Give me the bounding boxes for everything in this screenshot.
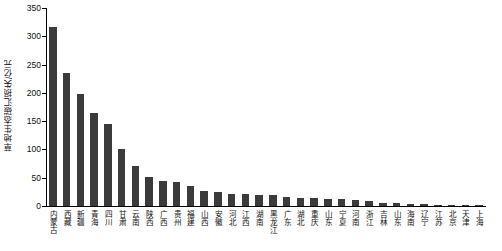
y-axis-tick-mark <box>42 36 46 37</box>
bar <box>173 182 181 206</box>
bar <box>283 197 291 206</box>
x-axis-tick-label: 宁夏 <box>336 210 347 226</box>
x-axis-tick-label: 福建 <box>185 210 196 226</box>
x-axis-tick-label: 湖南 <box>254 210 265 226</box>
x-axis-tick-label: 广东 <box>281 210 292 226</box>
y-axis-tick-mark <box>42 206 46 207</box>
bar <box>393 203 401 206</box>
x-axis-line <box>46 206 486 207</box>
x-axis-tick-label: 青海 <box>89 210 100 226</box>
x-axis-tick-label: 黑龙江 <box>267 210 278 234</box>
x-axis-tick-label: 湖北 <box>295 210 306 226</box>
y-axis-tick-mark <box>42 121 46 122</box>
bar <box>448 205 456 206</box>
bar <box>242 194 250 206</box>
bar <box>63 73 71 206</box>
x-axis-tick-label: 陕西 <box>144 210 155 226</box>
x-axis-tick-label: 贵州 <box>171 210 182 226</box>
x-axis-tick-label: 山西 <box>199 210 210 226</box>
bar <box>462 205 470 206</box>
bar <box>132 166 140 206</box>
x-axis-tick-label: 重庆 <box>309 210 320 226</box>
bar <box>214 192 222 206</box>
x-axis-tick-label: 山东 <box>391 210 402 226</box>
bar <box>434 205 442 206</box>
bar <box>228 194 236 206</box>
x-axis-tick-label: 安徽 <box>212 210 223 226</box>
x-axis-tick-label: 内蒙古 <box>47 210 58 234</box>
bar <box>338 199 346 206</box>
bar <box>145 177 153 206</box>
bar <box>187 186 195 206</box>
bar <box>475 205 483 206</box>
bar <box>352 200 360 206</box>
x-axis-labels: 内蒙古西藏新疆青海四川甘肃云南陕西广西贵州福建山西安徽河北江西湖南黑龙江广东湖北… <box>46 208 486 251</box>
bar <box>90 113 98 206</box>
y-axis-tick-mark <box>42 8 46 9</box>
y-axis-tick-mark <box>42 65 46 66</box>
bar <box>200 191 208 206</box>
bar <box>77 94 85 206</box>
x-axis-tick-label: 江西 <box>240 210 251 226</box>
bar <box>297 198 305 206</box>
bar <box>365 201 373 206</box>
x-axis-tick-label: 河北 <box>226 210 237 226</box>
x-axis-tick-label: 北京 <box>446 210 457 226</box>
y-axis-tick-mark <box>42 93 46 94</box>
bar-chart: 草地生态碳汇损失/亿元 050100150200250300350 内蒙古西藏新… <box>0 0 502 251</box>
x-axis-tick-label: 浙江 <box>364 210 375 226</box>
bar <box>269 195 277 206</box>
bar <box>118 149 126 206</box>
bar-series <box>46 8 486 206</box>
x-axis-tick-label: 海南 <box>405 210 416 226</box>
bar <box>407 204 415 206</box>
y-axis-tick-mark <box>42 178 46 179</box>
x-axis-tick-label: 新疆 <box>75 210 86 226</box>
y-axis-title: 草地生态碳汇损失/亿元 <box>2 0 16 210</box>
x-axis-tick-label: 山东 <box>322 210 333 226</box>
x-axis-tick-label: 辽宁 <box>419 210 430 226</box>
bar <box>49 27 57 206</box>
x-axis-tick-label: 云南 <box>130 210 141 226</box>
x-axis-tick-label: 四川 <box>102 210 113 226</box>
bar <box>420 204 428 206</box>
plot-area: 050100150200250300350 <box>46 8 486 206</box>
bar <box>379 203 387 206</box>
bar <box>255 195 263 206</box>
x-axis-tick-label: 西藏 <box>61 210 72 226</box>
x-axis-tick-label: 甘肃 <box>116 210 127 226</box>
x-axis-tick-label: 天津 <box>460 210 471 226</box>
x-axis-tick-label: 江苏 <box>432 210 443 226</box>
x-axis-tick-label: 吉林 <box>377 210 388 226</box>
x-axis-tick-label: 广西 <box>157 210 168 226</box>
bar <box>159 181 167 206</box>
y-axis-tick-mark <box>42 149 46 150</box>
x-axis-tick-label: 河南 <box>350 210 361 226</box>
bar <box>324 199 332 206</box>
bar <box>310 198 318 206</box>
bar <box>104 124 112 206</box>
x-axis-tick-label: 上海 <box>474 210 485 226</box>
